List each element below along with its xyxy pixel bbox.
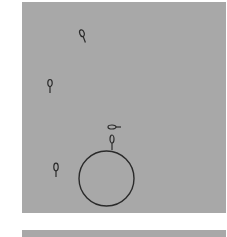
oocyte-circle bbox=[79, 151, 134, 206]
sperm-cell-3 bbox=[108, 125, 121, 129]
sperm-cell-4 bbox=[110, 135, 114, 150]
micrograph-drawing bbox=[0, 0, 227, 237]
sperm-cell-2 bbox=[48, 80, 52, 94]
sperm-cell-1 bbox=[79, 29, 88, 43]
sperm-cell-5 bbox=[54, 163, 58, 177]
